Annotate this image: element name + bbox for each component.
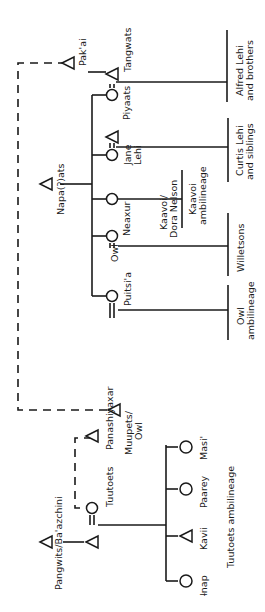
label-jane-2: Lehi — [132, 145, 143, 165]
female-symbol-neaxur — [107, 194, 118, 205]
male-symbol-panashiyaxar — [86, 430, 98, 442]
male-symbol-tangwats — [106, 68, 118, 80]
label-piyaats: Piyaats — [121, 86, 132, 120]
female-symbol-paarey — [180, 483, 192, 495]
male-symbol-kavii — [180, 530, 192, 542]
label-muupets-2: Owl — [133, 422, 144, 440]
female-symbol-tuutoets — [87, 503, 98, 514]
label-panashiyaxar: Panashiyaxar — [104, 387, 115, 450]
label-tuutoets: Tuutoets — [104, 466, 115, 508]
label-tangwats: Tangwats — [122, 28, 133, 73]
female-symbol-masi — [180, 441, 192, 453]
male-symbol-napaats — [40, 178, 52, 190]
male-symbol-pangwits — [40, 536, 52, 548]
label-neaxur: Neaxur — [121, 202, 132, 236]
label-kaavoi-amb-2: ambilineage — [197, 166, 208, 225]
label-enap: Ɨnap — [198, 575, 209, 596]
male-symbol-jane-spouse — [106, 131, 118, 143]
female-symbol-jane — [107, 150, 118, 161]
label-kavii: Kavii — [198, 527, 209, 550]
male-symbol-spouse-tuutoets — [86, 536, 98, 548]
label-pangwits: Pangwits/Ba'azchini — [53, 496, 64, 590]
label-paarey: Paarey — [198, 476, 209, 508]
female-symbol-enap — [180, 575, 192, 587]
label-curtis-2: and siblings — [244, 123, 255, 180]
label-napaats: Napa(ʔ)ats — [55, 163, 66, 215]
label-masi: Masi' — [198, 436, 209, 460]
kinship-diagram: Pak'ai Tangwats Piyaats Jane Lehi Napa(ʔ… — [0, 0, 265, 612]
label-owl-spouse: Owl — [109, 244, 120, 262]
label-kaavoi-2: Dora Nelson — [168, 180, 179, 238]
dashed-relation-line-lower — [75, 438, 92, 508]
label-owl-amb-2: ambilineage — [245, 281, 256, 340]
label-tuutoets-ambilineage: Tuutoets ambilineage — [225, 466, 236, 569]
label-willetsons: Willetsons — [235, 224, 246, 272]
female-symbol-puitsia — [107, 291, 118, 302]
label-puitsia: Puitsi'a — [122, 272, 133, 306]
male-symbol-pakai — [62, 57, 74, 69]
label-pakai: Pak'ai — [77, 38, 88, 66]
label-alfred-2: and brothers — [244, 40, 255, 101]
female-symbol-owl-spouse — [107, 231, 118, 242]
female-symbol-piyaats — [107, 90, 118, 101]
